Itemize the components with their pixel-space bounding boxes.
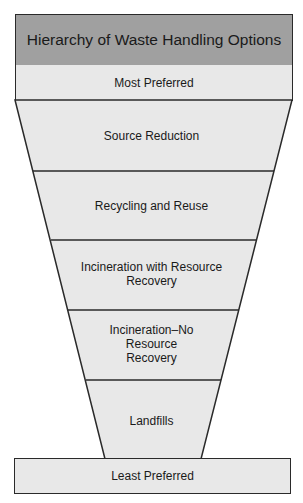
tier-label-text: Landfills (129, 414, 173, 428)
tier-landfills: Landfills (0, 414, 303, 428)
tier-label-line: Recovery (0, 351, 303, 365)
tier-incineration-with-recovery: Incineration with Resource Recovery (0, 260, 303, 288)
tier-label-line: Incineration with Resource (0, 260, 303, 274)
least-preferred-box: Least Preferred (14, 458, 291, 494)
tier-label-line: Incineration–No (0, 323, 303, 337)
tier-recycling-reuse: Recycling and Reuse (0, 199, 303, 213)
tier-incineration-no-recovery: Incineration–No Resource Recovery (0, 323, 303, 365)
tier-label-text: Recycling and Reuse (95, 199, 208, 213)
tier-label-line: Recovery (0, 274, 303, 288)
tier-label-text: Source Reduction (104, 129, 199, 143)
tier-label-line: Resource (0, 337, 303, 351)
tier-source-reduction: Source Reduction (0, 129, 303, 143)
least-preferred-label: Least Preferred (111, 469, 194, 483)
